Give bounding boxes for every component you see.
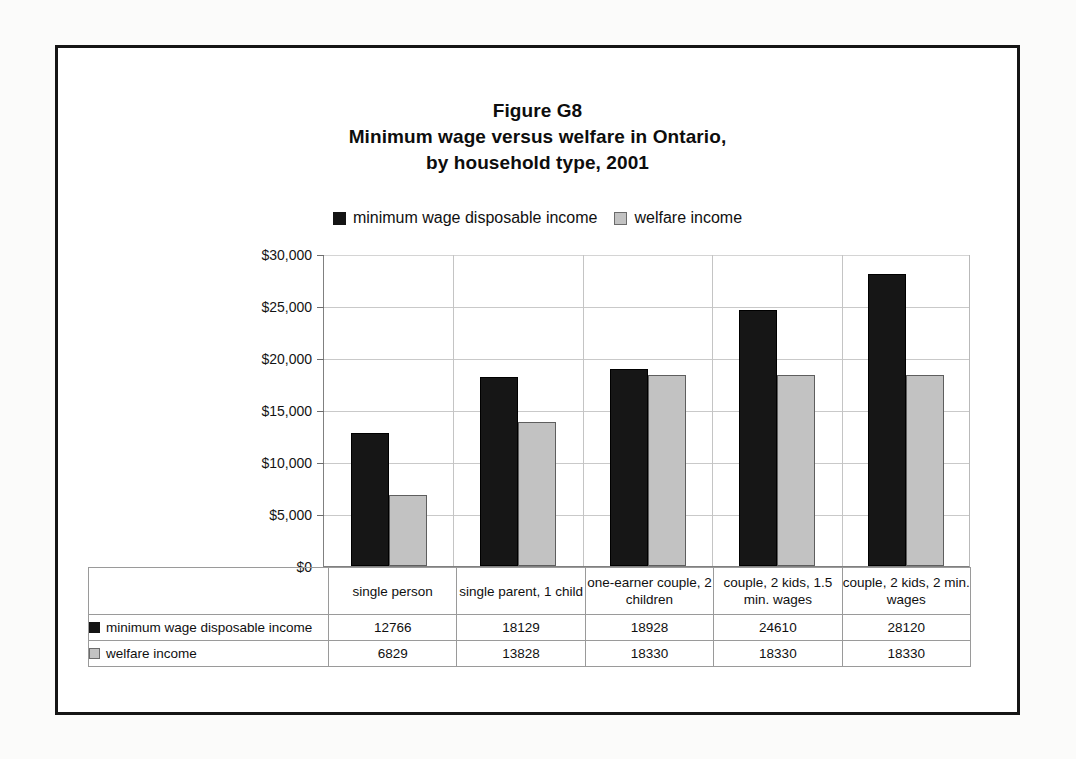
data-value-cell: 28120: [842, 615, 970, 641]
bar-minimum-wage: [351, 433, 389, 566]
y-axis-tick-mark: [317, 411, 324, 412]
bar-welfare: [518, 422, 556, 566]
data-value-cell: 18928: [585, 615, 713, 641]
data-value-cell: 18330: [714, 641, 842, 667]
bar-minimum-wage: [610, 369, 648, 566]
y-axis-tick-label: $5,000: [269, 507, 312, 523]
figure-frame: Figure G8 Minimum wage versus welfare in…: [55, 45, 1020, 715]
bar-minimum-wage: [739, 310, 777, 566]
y-axis-tick-mark: [317, 307, 324, 308]
table-rowheader-label: minimum wage disposable income: [106, 620, 312, 635]
bar-minimum-wage: [868, 274, 906, 566]
gray-square-icon: [89, 648, 100, 659]
black-square-icon: [89, 622, 100, 633]
y-axis-tick-mark: [317, 463, 324, 464]
data-value-cell: 18330: [585, 641, 713, 667]
category-label-cell: single parent, 1 child: [457, 568, 585, 615]
data-value-cell: 24610: [714, 615, 842, 641]
category-separator: [453, 255, 454, 566]
table-row-welfare: welfare income 682913828183301833018330: [89, 641, 971, 667]
category-separator: [712, 255, 713, 566]
bar-welfare: [906, 375, 944, 566]
y-axis-tick-mark: [317, 359, 324, 360]
bar-welfare: [648, 375, 686, 566]
bar-welfare: [389, 495, 427, 566]
table-rowheader-label: welfare income: [106, 646, 197, 661]
data-value-cell: 6829: [329, 641, 457, 667]
category-label-cell: couple, 2 kids, 1.5 min. wages: [714, 568, 842, 615]
data-value-cell: 18129: [457, 615, 585, 641]
category-separator: [842, 255, 843, 566]
y-axis-tick-label: $10,000: [261, 455, 312, 471]
data-value-cell: 12766: [329, 615, 457, 641]
y-axis-tick-label: $30,000: [261, 247, 312, 263]
category-separator: [583, 255, 584, 566]
y-axis-tick-label: $25,000: [261, 299, 312, 315]
plot-area: [323, 255, 970, 567]
y-axis-tick-label: $15,000: [261, 403, 312, 419]
table-row-minimum-wage: minimum wage disposable income 127661812…: [89, 615, 971, 641]
table-rowheader-minimum-wage: minimum wage disposable income: [89, 615, 329, 641]
y-axis-tick-mark: [317, 515, 324, 516]
category-label-cell: couple, 2 kids, 2 min. wages: [842, 568, 970, 615]
scanned-page: Figure G8 Minimum wage versus welfare in…: [0, 0, 1076, 759]
bar-welfare: [777, 375, 815, 566]
category-label-cell: one-earner couple, 2 children: [585, 568, 713, 615]
category-label-cell: single person: [329, 568, 457, 615]
data-value-cell: 18330: [842, 641, 970, 667]
y-axis-tick-label: $20,000: [261, 351, 312, 367]
y-axis-tick-mark: [317, 255, 324, 256]
table-row-categories: single personsingle parent, 1 childone-e…: [89, 568, 971, 615]
gridline: [324, 255, 969, 256]
data-table: single personsingle parent, 1 childone-e…: [88, 567, 971, 667]
bar-minimum-wage: [480, 377, 518, 566]
table-corner-cell: [89, 568, 329, 615]
table-rowheader-welfare: welfare income: [89, 641, 329, 667]
y-axis-labels: $0$5,000$10,000$15,000$20,000$25,000$30,…: [208, 255, 312, 567]
data-value-cell: 13828: [457, 641, 585, 667]
